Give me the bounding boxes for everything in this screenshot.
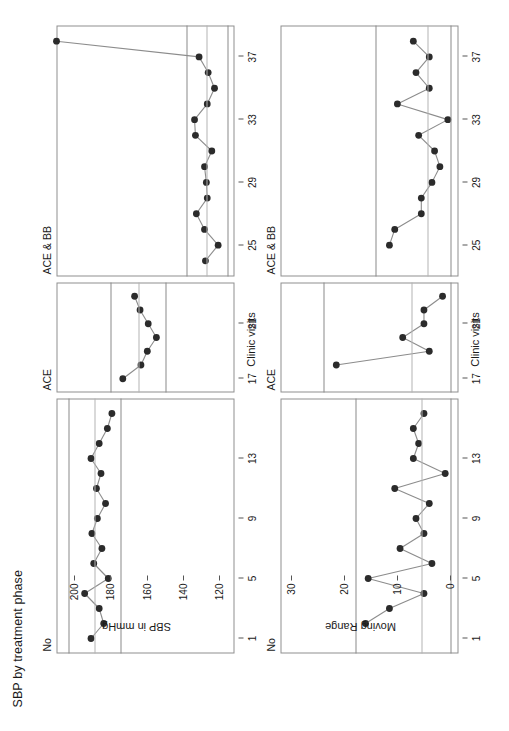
individuals-chart-panel: No ACE ACE & BB SBP in mmHg 200180160140… xyxy=(38,25,234,653)
individuals-x-axis: Clinic visits 15913172125293337 xyxy=(238,25,264,653)
data-point[interactable] xyxy=(98,545,105,552)
data-point[interactable] xyxy=(420,306,427,313)
data-point[interactable] xyxy=(144,320,151,327)
moving-range-y-axis: Moving Range 3020100 xyxy=(262,575,458,653)
x-tick-mark xyxy=(238,55,243,56)
individuals-y-axis-label: SBP in mmHg xyxy=(61,620,211,632)
series-segment xyxy=(394,488,429,503)
data-point[interactable] xyxy=(441,470,448,477)
series-segment xyxy=(56,41,199,57)
x-tick-mark xyxy=(462,244,467,245)
y-tick-mark xyxy=(290,575,291,580)
data-point[interactable] xyxy=(386,241,393,248)
x-tick-mark xyxy=(238,517,243,518)
data-point[interactable] xyxy=(131,292,138,299)
x-tick-label: 17 xyxy=(246,373,257,384)
figure-title: SBP by treatment phase xyxy=(10,570,24,707)
ace-lcl-line xyxy=(165,282,166,392)
x-tick-mark xyxy=(238,118,243,119)
y-tick-label: 180 xyxy=(105,583,116,600)
x-tick-mark xyxy=(238,457,243,458)
x-tick-label: 25 xyxy=(470,239,481,250)
data-point[interactable] xyxy=(53,37,60,44)
data-point[interactable] xyxy=(436,163,443,170)
mr-stage-label-ace-bb: ACE & BB xyxy=(264,226,276,274)
data-point[interactable] xyxy=(108,410,115,417)
x-tick-label: 5 xyxy=(470,575,481,581)
data-point[interactable] xyxy=(102,500,109,507)
y-tick-mark xyxy=(110,575,111,580)
rotated-figure-wrapper: SBP by treatment phase No ACE ACE & BB S… xyxy=(0,0,509,731)
x-tick-mark xyxy=(238,322,243,323)
data-point[interactable] xyxy=(93,485,100,492)
bb-ucl-line xyxy=(186,25,187,276)
data-point[interactable] xyxy=(97,470,104,477)
data-point[interactable] xyxy=(332,361,339,368)
data-point[interactable] xyxy=(211,84,218,91)
series-segment xyxy=(413,458,445,473)
moving-range-series xyxy=(280,25,458,653)
data-point[interactable] xyxy=(152,334,159,341)
data-point[interactable] xyxy=(391,226,398,233)
data-point[interactable] xyxy=(192,131,199,138)
x-tick-mark xyxy=(238,181,243,182)
data-point[interactable] xyxy=(415,131,422,138)
data-point[interactable] xyxy=(202,178,209,185)
y-tick-label: 120 xyxy=(214,583,225,600)
data-point[interactable] xyxy=(425,500,432,507)
series-segment xyxy=(394,473,444,488)
series-segment xyxy=(402,323,423,337)
control-chart-figure: SBP by treatment phase No ACE ACE & BB S… xyxy=(0,0,509,731)
data-point[interactable] xyxy=(393,100,400,107)
data-point[interactable] xyxy=(396,545,403,552)
bb-lcl-line xyxy=(450,25,451,276)
bb-lcl-line xyxy=(227,25,228,276)
bb-center-line xyxy=(427,25,428,276)
series-segment xyxy=(397,103,447,119)
y-tick-mark xyxy=(396,575,397,580)
series-segment xyxy=(402,337,429,351)
ace-center-line xyxy=(138,282,139,392)
x-tick-mark xyxy=(462,55,467,56)
x-tick-label: 33 xyxy=(246,114,257,125)
series-segment xyxy=(418,119,447,135)
series-segment xyxy=(423,296,442,310)
data-point[interactable] xyxy=(119,375,126,382)
stage-label-ace: ACE xyxy=(40,368,52,390)
x-tick-mark xyxy=(238,377,243,378)
mr-stage-label-ace: ACE xyxy=(264,368,276,390)
y-tick-label: 0 xyxy=(445,583,456,589)
y-tick-label: 10 xyxy=(391,583,402,594)
moving-range-plot-area xyxy=(280,25,458,653)
data-point[interactable] xyxy=(103,425,110,432)
y-tick-label: 160 xyxy=(141,583,152,600)
series-segment xyxy=(400,548,432,563)
data-point[interactable] xyxy=(136,306,143,313)
x-tick-label: 9 xyxy=(246,515,257,521)
x-tick-label: 13 xyxy=(246,452,257,463)
x-tick-mark xyxy=(462,118,467,119)
data-point[interactable] xyxy=(428,560,435,567)
x-tick-label: 1 xyxy=(246,635,257,641)
y-tick-mark xyxy=(146,575,147,580)
series-segment xyxy=(400,533,424,548)
data-point[interactable] xyxy=(195,53,202,60)
ace-ucl-line xyxy=(110,282,111,392)
y-tick-mark xyxy=(183,575,184,580)
data-point[interactable] xyxy=(415,440,422,447)
series-segment xyxy=(394,213,421,229)
x-tick-mark xyxy=(462,377,467,378)
x-tick-label: 1 xyxy=(470,635,481,641)
data-point[interactable] xyxy=(391,485,398,492)
data-point[interactable] xyxy=(399,334,406,341)
moving-range-y-axis-label: Moving Range xyxy=(285,620,435,632)
y-tick-label: 200 xyxy=(69,583,80,600)
data-point[interactable] xyxy=(409,37,416,44)
moving-range-chart-panel: No ACE ACE & BB Moving Range 3020100 UCL… xyxy=(262,25,458,653)
data-point[interactable] xyxy=(425,347,432,354)
y-tick-label: 30 xyxy=(285,583,296,594)
x-tick-mark xyxy=(462,637,467,638)
ace-ucl-line xyxy=(323,282,324,392)
data-point[interactable] xyxy=(409,455,416,462)
series-segment xyxy=(336,351,429,365)
